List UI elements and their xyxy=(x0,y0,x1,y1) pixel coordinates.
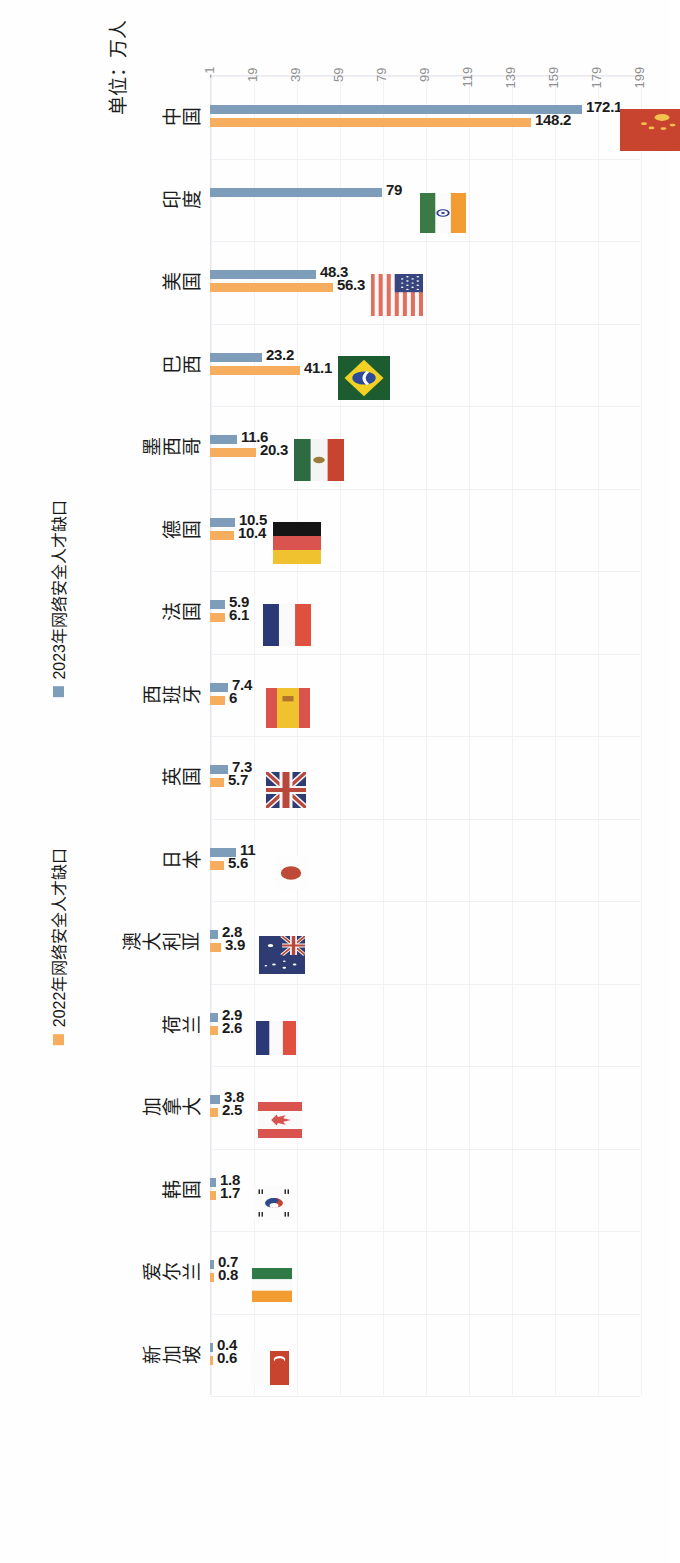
netherlands-flag xyxy=(263,604,311,646)
bar-2023[interactable] xyxy=(210,600,225,609)
bar-2022[interactable] xyxy=(210,366,301,375)
bar-group[interactable]: 0.40.6 xyxy=(210,1343,640,1426)
bar-2022[interactable] xyxy=(210,448,256,457)
bar-value-label: 23.2 xyxy=(266,346,294,363)
legend-label: 2023年网络安全人才缺口 xyxy=(46,500,70,680)
square-marker-icon xyxy=(53,687,64,698)
bar-group[interactable]: 7.46 xyxy=(210,683,640,766)
bar-2023[interactable] xyxy=(210,188,382,197)
bar-value-label: 6.1 xyxy=(229,606,249,623)
axis-tick-label: 19 xyxy=(245,67,260,81)
bar-value-label: 0.8 xyxy=(218,1266,238,1283)
bar-2023[interactable] xyxy=(210,1343,213,1352)
bar-2023[interactable] xyxy=(210,270,316,279)
category-label: 韩国 xyxy=(163,1176,203,1202)
bar-value-label: 0.6 xyxy=(217,1349,237,1366)
value-axis-ticks: 1991791591391199979593919-1 xyxy=(210,0,640,75)
bar-group[interactable]: 5.96.1 xyxy=(210,600,640,683)
bar-value-label: 3.9 xyxy=(225,936,245,953)
bar-2023[interactable] xyxy=(210,105,582,114)
bar-2022[interactable] xyxy=(210,1026,218,1035)
bar-2022[interactable] xyxy=(210,1191,216,1200)
usa-flag xyxy=(371,274,423,316)
bar-value-label: 2.6 xyxy=(222,1019,242,1036)
brazil-flag xyxy=(339,356,391,400)
category-label: 日本 xyxy=(163,846,203,872)
bar-group[interactable]: 3.82.5 xyxy=(210,1095,640,1178)
bar-2022[interactable] xyxy=(210,778,224,787)
bar-2023[interactable] xyxy=(210,1260,214,1269)
mexico-flag xyxy=(294,439,344,481)
bar-group[interactable]: 2.83.9 xyxy=(210,930,640,1013)
bar-2023[interactable] xyxy=(210,353,262,362)
legend-item-2022[interactable]: 2022年网络安全人才缺口 xyxy=(46,848,70,1046)
axis-tick-label: 179 xyxy=(589,67,604,89)
bar-value-label: 148.2 xyxy=(535,111,571,128)
bar-2023[interactable] xyxy=(210,1095,220,1104)
bar-2022[interactable] xyxy=(210,1273,214,1282)
bar-2022[interactable] xyxy=(210,1108,218,1117)
bar-group[interactable]: 10.510.4 xyxy=(210,518,640,601)
southkorea-flag xyxy=(254,1186,294,1220)
bar-2023[interactable] xyxy=(210,1178,216,1187)
bar-2023[interactable] xyxy=(210,435,237,444)
ireland-flag xyxy=(252,1268,292,1302)
category-label: 法国 xyxy=(163,598,203,624)
category-label: 墨西哥 xyxy=(143,433,202,459)
bar-value-label: 56.3 xyxy=(337,276,365,293)
bar-2022[interactable] xyxy=(210,118,531,127)
category-label: 印度 xyxy=(163,186,203,212)
uk-flag xyxy=(266,772,306,808)
bar-series-container: 172.1148.27948.356.323.241.111.620.310.5… xyxy=(210,75,640,1395)
bar-group[interactable]: 172.1148.2 xyxy=(210,105,640,188)
bar-group[interactable]: 1.81.7 xyxy=(210,1178,640,1261)
category-axis-labels: 中国印度美国巴西墨西哥德国法国西班牙英国日本澳大利亚荷兰加拿大韩国爱尔兰新加坡 xyxy=(82,75,202,1395)
square-marker-icon xyxy=(53,1034,64,1045)
axis-tick-label: -1 xyxy=(202,67,217,79)
bar-group[interactable]: 115.6 xyxy=(210,848,640,931)
china-flag xyxy=(620,109,680,151)
bar-2022[interactable] xyxy=(210,613,225,622)
bar-value-label: 172.1 xyxy=(586,98,622,115)
bar-group[interactable]: 2.92.6 xyxy=(210,1013,640,1096)
category-label: 英国 xyxy=(163,763,203,789)
bar-group[interactable]: 79 xyxy=(210,188,640,271)
bar-group[interactable]: 11.620.3 xyxy=(210,435,640,518)
india-flag xyxy=(420,193,466,233)
spain-flag xyxy=(266,688,310,728)
category-label: 德国 xyxy=(163,516,203,542)
bar-2023[interactable] xyxy=(210,765,228,774)
bar-value-label: 79 xyxy=(386,181,402,198)
axis-tick-label: 99 xyxy=(417,67,432,81)
bar-2022[interactable] xyxy=(210,861,224,870)
canada-flag xyxy=(258,1102,302,1138)
axis-title: 单位：万人 xyxy=(103,20,130,115)
axis-tick-label: 199 xyxy=(632,67,647,89)
bar-2022[interactable] xyxy=(210,283,333,292)
bar-2022[interactable] xyxy=(210,1356,213,1365)
axis-tick-label: 159 xyxy=(546,67,561,89)
gridline xyxy=(641,76,642,1395)
bar-2022[interactable] xyxy=(210,696,225,705)
bar-2023[interactable] xyxy=(210,518,235,527)
bar-2023[interactable] xyxy=(210,930,218,939)
bar-group[interactable]: 7.35.7 xyxy=(210,765,640,848)
bar-value-label: 5.7 xyxy=(228,771,248,788)
australia-flag xyxy=(259,936,305,974)
category-label: 澳大利亚 xyxy=(123,928,202,954)
category-label: 西班牙 xyxy=(143,681,202,707)
bar-2023[interactable] xyxy=(210,683,228,692)
japan-flag xyxy=(274,856,308,890)
legend-item-2023[interactable]: 2023年网络安全人才缺口 xyxy=(46,500,70,698)
bar-2022[interactable] xyxy=(210,943,221,952)
axis-tick-label: 39 xyxy=(288,67,303,81)
bar-group[interactable]: 0.70.8 xyxy=(210,1260,640,1343)
bar-group[interactable]: 48.356.3 xyxy=(210,270,640,353)
singapore-flag xyxy=(251,1351,289,1385)
category-label: 加拿大 xyxy=(143,1093,202,1119)
bar-group[interactable]: 23.241.1 xyxy=(210,353,640,436)
axis-tick-label: 79 xyxy=(374,67,389,81)
bar-2023[interactable] xyxy=(210,1013,218,1022)
bar-2022[interactable] xyxy=(210,531,235,540)
axis-tick-label: 139 xyxy=(503,67,518,89)
